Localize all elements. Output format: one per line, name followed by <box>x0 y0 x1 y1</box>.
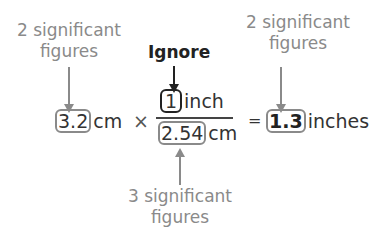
label-line: figures <box>0 41 138 62</box>
box-2-54: 2.54 <box>158 121 206 145</box>
label-line: figures <box>110 207 250 228</box>
label-line: 2 significant <box>230 12 366 33</box>
numerator: 1inch <box>160 89 224 113</box>
right-sigfig-label: 2 significant figures <box>230 12 366 54</box>
ignore-label: Ignore <box>148 42 210 62</box>
label-line: figures <box>230 33 366 54</box>
bottom-sigfig-label: 3 significant figures <box>110 186 250 228</box>
denominator: 2.54cm <box>158 121 237 145</box>
fraction-bar <box>156 117 233 119</box>
unit-inch: inch <box>184 90 224 112</box>
unit-inches: inches <box>308 110 369 132</box>
left-sigfig-label: 2 significant figures <box>0 20 138 62</box>
times-sign: × <box>133 109 149 133</box>
label-line: 2 significant <box>0 20 138 41</box>
box-1: 1 <box>160 89 182 113</box>
box-3-2: 3.2 <box>55 109 91 133</box>
equals-sign: = <box>248 109 261 133</box>
box-1-3: 1.3 <box>266 109 306 133</box>
result: 1.3inches <box>266 109 369 133</box>
label-line: 3 significant <box>110 186 250 207</box>
unit-cm: cm <box>93 110 122 132</box>
unit-cm: cm <box>208 122 237 144</box>
term-value1: 3.2cm <box>55 109 122 133</box>
